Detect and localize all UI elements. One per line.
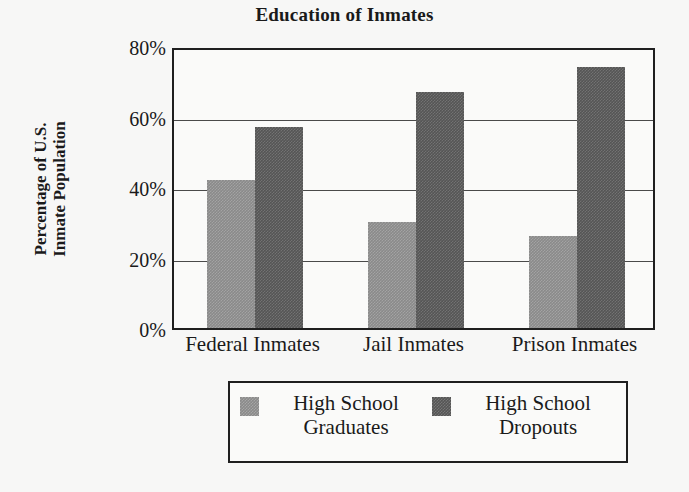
x-axis-category-labels: Federal InmatesJail InmatesPrison Inmate… [172, 334, 655, 364]
x-axis-label-jail-inmates: Jail Inmates [333, 334, 494, 355]
bar-jail-inmates-high-school-dropouts [416, 92, 464, 328]
y-axis-tick-80%: 80% [86, 38, 174, 58]
bar-federal-inmates-high-school-dropouts [255, 127, 303, 328]
y-axis-tick-20%: 20% [86, 250, 174, 270]
y-axis-title: Percentage of U.S. Inmate Population [18, 48, 82, 330]
bar-jail-inmates-high-school-graduates [368, 222, 416, 328]
x-axis-label-prison-inmates: Prison Inmates [494, 334, 655, 355]
plot-area [172, 48, 655, 330]
bar-federal-inmates-high-school-graduates [207, 180, 255, 328]
y-axis-title-line-2: Inmate Population [50, 121, 69, 257]
legend-swatch-high-school-dropouts [432, 397, 451, 416]
legend-swatch-high-school-graduates [240, 397, 259, 416]
y-axis-title-line-1: Percentage of U.S. [31, 121, 50, 257]
legend-item-high-school-dropouts[interactable]: High School Dropouts [432, 392, 616, 439]
x-axis-label-federal-inmates: Federal Inmates [172, 334, 333, 355]
legend-item-high-school-graduates[interactable]: High School Graduates [240, 392, 424, 439]
chart-legend: High School GraduatesHigh School Dropout… [228, 381, 628, 463]
legend-label-high-school-graduates: High School Graduates [268, 392, 424, 439]
y-axis-tick-0%: 0% [86, 320, 174, 340]
bar-series-layer [174, 50, 653, 328]
chart-container: Education of Inmates Percentage of U.S. … [0, 0, 689, 492]
bar-prison-inmates-high-school-dropouts [577, 67, 625, 328]
legend-label-high-school-dropouts: High School Dropouts [460, 392, 616, 439]
y-axis-tick-40%: 40% [86, 179, 174, 199]
y-axis-tick-60%: 60% [86, 109, 174, 129]
bar-prison-inmates-high-school-graduates [529, 236, 577, 328]
y-axis-tick-labels: 0%20%40%60%80% [78, 0, 174, 492]
